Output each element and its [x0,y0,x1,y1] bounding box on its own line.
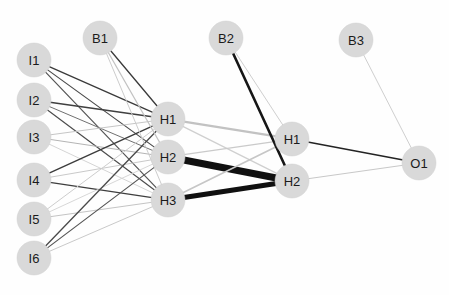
node-i6[interactable]: I6 [17,241,51,275]
node-label-ha2: H2 [160,150,177,165]
node-label-i5: I5 [29,212,40,227]
node-label-i6: I6 [29,251,40,266]
node-i2[interactable]: I2 [17,83,51,117]
node-label-b1: B1 [92,31,108,46]
node-label-b2: B2 [218,31,234,46]
node-label-hb1: H1 [284,132,301,147]
node-ha3[interactable]: H3 [151,183,185,217]
node-label-hb2: H2 [284,174,301,189]
edge-i6-ha2 [47,167,155,249]
node-label-o1: O1 [410,156,427,171]
node-b1[interactable]: B1 [83,21,117,55]
node-label-i3: I3 [29,130,40,145]
node-i1[interactable]: I1 [17,43,51,77]
node-label-i2: I2 [29,93,40,108]
edge-hb2-o1 [308,165,403,179]
edge-b2-hb2 [233,53,286,167]
node-i5[interactable]: I5 [17,202,51,236]
node-label-ha3: H3 [160,193,177,208]
node-i3[interactable]: I3 [17,120,51,154]
node-label-ha1: H1 [160,112,177,127]
network-graph-svg: I1I2I3I4I5I6B1H1H2H3B2H1H2B3O1 [0,0,449,295]
edge-i2-ha1 [50,102,152,117]
edge-i1-ha2 [47,69,155,147]
node-label-i4: I4 [29,173,40,188]
node-b3[interactable]: B3 [339,23,373,57]
node-label-b3: B3 [348,33,364,48]
network-diagram-canvas: I1I2I3I4I5I6B1H1H2H3B2H1H2B3O1 [0,0,449,295]
node-ha2[interactable]: H2 [151,140,185,174]
edge-b3-o1 [363,54,411,149]
node-hb1[interactable]: H1 [275,122,309,156]
edge-hb1-o1 [308,142,404,160]
node-label-i1: I1 [29,53,40,68]
edge-layer [45,50,412,251]
edge-i1-ha1 [49,66,154,112]
node-i4[interactable]: I4 [17,163,51,197]
edge-b1-ha2 [108,52,160,143]
node-hb2[interactable]: H2 [275,164,309,198]
node-o1[interactable]: O1 [402,146,436,180]
node-b2[interactable]: B2 [209,21,243,55]
node-ha1[interactable]: H1 [151,102,185,136]
edge-ha2-hb1 [184,141,276,154]
edge-b2-hb1 [235,51,283,125]
edge-i6-ha3 [49,206,154,251]
